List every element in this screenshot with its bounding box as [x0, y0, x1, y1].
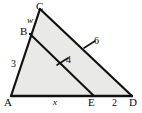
segment-label-w: w	[27, 16, 33, 25]
vertex-dot-b	[29, 33, 31, 35]
segment-label-x: x	[53, 98, 57, 107]
vertex-label-b: B	[20, 26, 27, 37]
segment-label-2: 2	[112, 98, 117, 108]
vertex-label-e: E	[88, 97, 95, 108]
segment-label-3: 3	[11, 59, 16, 69]
segment-label-4: 4	[66, 55, 71, 65]
figure-canvas	[0, 0, 142, 113]
vertex-label-c: C	[36, 1, 43, 12]
vertex-label-a: A	[4, 97, 12, 108]
geometry-figure: C B A E D w 3 x 4 6 2	[0, 0, 142, 113]
vertex-label-d: D	[129, 97, 137, 108]
segment-label-6: 6	[94, 36, 99, 46]
